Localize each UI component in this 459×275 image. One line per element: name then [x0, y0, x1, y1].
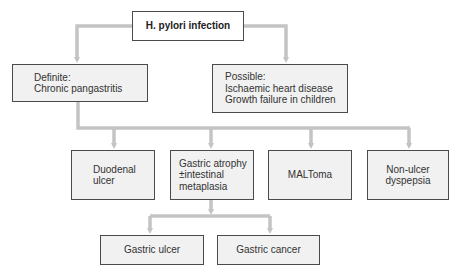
node-line: Gastric ulcer — [124, 244, 180, 256]
node-line: Chronic pangastritis — [34, 83, 122, 95]
node-heading: Possible: — [225, 71, 266, 83]
node-line: Non-ulcer — [386, 164, 429, 176]
node-line: ±intestinal — [179, 169, 224, 181]
node-duodenal-ulcer: Duodenal ulcer — [71, 150, 155, 200]
node-line: Growth failure in children — [225, 94, 336, 106]
node-line: dyspepsia — [385, 175, 430, 187]
node-h-pylori-infection: H. pylori infection — [132, 11, 244, 41]
node-line: ulcer — [93, 175, 115, 187]
node-line: Duodenal — [93, 164, 136, 176]
node-non-ulcer-dyspepsia: Non-ulcer dyspepsia — [367, 150, 449, 200]
node-line: MALToma — [288, 169, 332, 181]
connector-lines — [0, 0, 459, 275]
node-line: Ischaemic heart disease — [225, 83, 333, 95]
node-label: H. pylori infection — [146, 20, 230, 32]
node-definite: Definite: Chronic pangastritis — [12, 64, 148, 102]
node-heading: Definite: — [34, 72, 71, 84]
node-line: metaplasia — [179, 181, 227, 193]
node-gastric-ulcer: Gastric ulcer — [100, 235, 204, 265]
node-gastric-atrophy: Gastric atrophy ±intestinal metaplasia — [170, 150, 254, 200]
flowchart: H. pylori infection Definite: Chronic pa… — [0, 0, 459, 275]
node-gastric-cancer: Gastric cancer — [217, 235, 320, 265]
node-line: Gastric cancer — [236, 244, 300, 256]
node-line: Gastric atrophy — [179, 158, 247, 170]
node-maltoma: MALToma — [268, 150, 352, 200]
node-possible: Possible: Ischaemic heart disease Growth… — [212, 64, 348, 113]
